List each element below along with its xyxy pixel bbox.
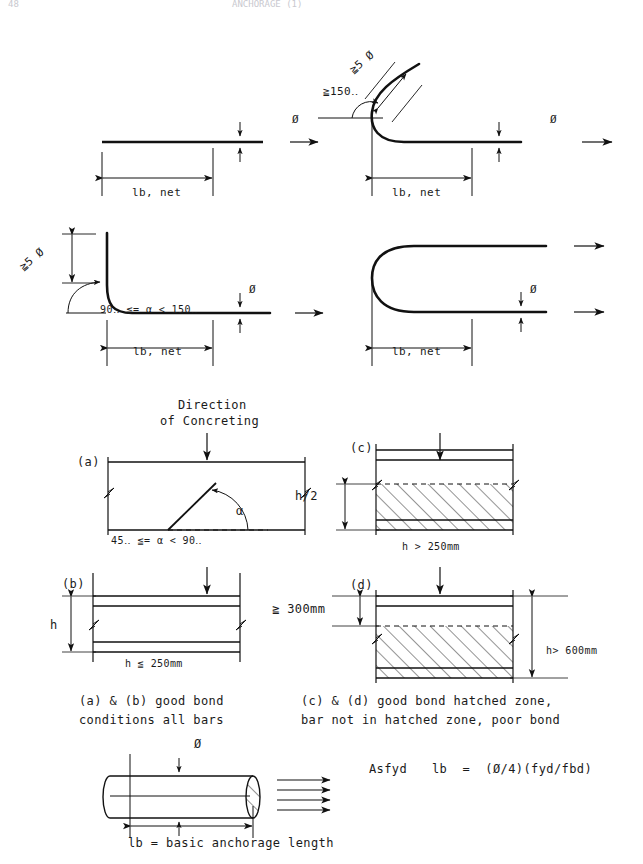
panel-b-drawing (62, 573, 246, 662)
panel-c-caption: h > 250mm (402, 540, 460, 554)
hook-bar-panel (318, 62, 612, 196)
hook-bar-diameter-label: Ø (550, 113, 557, 127)
direction-of-concreting-line2: of Concreting (160, 414, 259, 428)
panel-d-zone-dimension: ≧ 300mm (272, 602, 325, 616)
loop-bar-length-label: lb, net (392, 345, 441, 359)
panel-a-tag: (a) (77, 455, 100, 469)
bond-caption-right-line1: (c) & (d) good bond hatched zone, (301, 694, 553, 708)
panel-d-tag: (d) (350, 578, 373, 592)
direction-of-concreting-line1: Direction (178, 398, 247, 412)
panel-a-caption: 45‥ ≦= α < 90‥ (111, 534, 203, 548)
straight-bar-length-label: lb, net (132, 186, 181, 200)
panel-a-drawing (104, 457, 311, 535)
bond-caption-right-line2: bar not in hatched zone, poor bond (301, 713, 560, 727)
bend-angle-label: 90‥ ≦= α < 150‥ (100, 303, 198, 317)
hook-angle-label: ≧150‥ (323, 85, 359, 99)
panel-a-alpha-symbol: α (236, 504, 244, 518)
panel-c-zone-dimension: h/2 (295, 489, 318, 503)
hook-bar-length-label: lb, net (392, 186, 441, 200)
bond-caption-left-line2: conditions all bars (79, 713, 224, 727)
panel-d-drawing (332, 590, 568, 683)
bond-conditions-drawing (0, 430, 643, 760)
diagram-page: 48 ANCHORAGE (1) (0, 0, 643, 864)
anchorage-length-formula: lb = (Ø/4)(fyd/fbd) (432, 762, 592, 776)
panel-b-caption: h ≦ 250mm (125, 657, 183, 671)
panel-d-total-height: h> 600mm (546, 644, 597, 658)
panel-b-tag: (b) (62, 577, 85, 591)
bend-bar-panel (62, 233, 323, 366)
bend-bar-diameter-label: Ø (249, 283, 256, 297)
loop-bar-diameter-label: Ø (530, 283, 537, 297)
bond-caption-left-line1: (a) & (b) good bond (79, 694, 224, 708)
panel-c-drawing (336, 444, 519, 535)
panel-b-height-symbol: h (50, 618, 58, 632)
panel-c-tag: (c) (350, 441, 373, 455)
row-2-drawing (0, 210, 643, 390)
basic-anchorage-length-caption: lb = basic anchorage length (128, 836, 334, 850)
bend-bar-length-label: lb, net (133, 345, 182, 359)
row-1-drawing (0, 0, 643, 220)
formula-prefix-label: Asfyd (369, 762, 407, 776)
bottom-bar-diameter-label: Ø (194, 737, 202, 751)
straight-bar-panel (102, 122, 318, 196)
straight-bar-diameter-label: Ø (292, 113, 299, 127)
